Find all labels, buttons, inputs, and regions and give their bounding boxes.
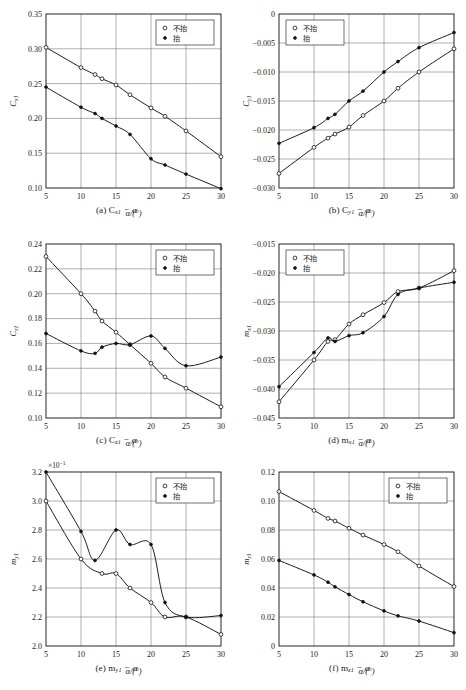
legend-marker-filled <box>164 495 167 498</box>
data-point-filled <box>129 133 132 136</box>
data-point-filled <box>383 609 386 612</box>
legend-a: 不抬抬 <box>156 20 214 45</box>
data-point-open <box>333 519 337 523</box>
data-point-filled <box>327 117 330 120</box>
y-tick-label: 0.16 <box>28 339 42 348</box>
caption-f: (f) mz1 − α <box>233 663 466 673</box>
x-tick-label: 30 <box>217 192 225 201</box>
legend-label-filled: 抬 <box>173 492 181 501</box>
x-tick-label: 30 <box>450 650 458 659</box>
data-point-filled <box>313 351 316 354</box>
data-point-open <box>163 375 167 379</box>
data-point-filled <box>278 559 281 562</box>
x-tick-label: 10 <box>310 650 318 659</box>
caption-e: (e) my1 − α <box>0 663 233 673</box>
x-tick-label: 5 <box>44 192 48 201</box>
y-tick-labels-b: −0.030−0.025−0.020−0.015−0.010−0.0050 <box>252 10 275 193</box>
data-point-open <box>326 340 330 344</box>
data-point-open <box>79 66 83 70</box>
data-point-filled <box>348 593 351 596</box>
x-tick-label: 30 <box>217 650 225 659</box>
data-point-open <box>333 132 337 136</box>
y-axis-title-b: Cy1 <box>241 95 252 106</box>
caption-e-tail: − α <box>122 663 138 673</box>
y-tick-label: −0.020 <box>252 126 275 135</box>
data-point-open <box>312 146 316 150</box>
x-tick-labels-f: 51015202530 <box>277 650 458 659</box>
y-axis-title-d: mx1 <box>241 325 252 337</box>
x-tick-label: 5 <box>44 422 48 431</box>
data-point-open <box>312 358 316 362</box>
data-point-open <box>100 319 104 323</box>
data-point-filled <box>80 349 83 352</box>
x-tick-labels-e: 51015202530 <box>44 650 225 659</box>
y-tick-label: −0.025 <box>252 298 275 307</box>
data-point-open <box>149 361 153 365</box>
x-tick-label: 10 <box>310 192 318 201</box>
data-point-open <box>382 99 386 103</box>
data-point-filled <box>80 106 83 109</box>
caption-c: (c) Cz1 − α <box>0 435 233 445</box>
data-point-filled <box>94 112 97 115</box>
x-tick-label: 5 <box>44 650 48 659</box>
y-tick-labels-f: 00.020.040.060.080.100.12 <box>261 468 275 651</box>
data-point-filled <box>220 614 223 617</box>
caption-a-tail: − α <box>121 205 137 215</box>
x-tick-label: 20 <box>147 650 155 659</box>
data-point-open <box>163 114 167 118</box>
data-point-filled <box>362 90 365 93</box>
x-tick-label: 20 <box>380 422 388 431</box>
x-tick-label: 15 <box>345 192 353 201</box>
data-point-filled <box>383 315 386 318</box>
chart-a: 0.100.150.200.250.300.3551015202530α/(°)… <box>0 0 233 230</box>
x-tick-label: 20 <box>380 192 388 201</box>
y-tick-label: −0.025 <box>252 155 275 164</box>
legend-label-open: 不抬 <box>303 254 318 263</box>
data-point-open <box>184 129 188 133</box>
data-point-open <box>277 490 281 494</box>
data-point-filled <box>115 529 118 532</box>
data-point-filled <box>94 559 97 562</box>
y-tick-labels-d: −0.045−0.040−0.035−0.030−0.025−0.020−0.0… <box>252 240 275 423</box>
figure-root: 0.100.150.200.250.300.3551015202530α/(°)… <box>0 0 466 690</box>
data-point-filled <box>453 31 456 34</box>
data-point-open <box>79 557 83 561</box>
data-point-filled <box>397 614 400 617</box>
legend-label-filled: 抬 <box>303 34 311 43</box>
x-tick-label: 10 <box>310 422 318 431</box>
y-tick-label: 0.08 <box>261 526 275 535</box>
chart-panel-f: 00.020.040.060.080.100.1251015202530α/(°… <box>233 458 466 688</box>
caption-f-tail: − α <box>354 663 370 673</box>
y-tick-label: −0.010 <box>252 68 275 77</box>
x-tick-label: 25 <box>415 650 423 659</box>
x-tick-label: 25 <box>182 650 190 659</box>
data-point-filled <box>164 601 167 604</box>
y-tick-label: −0.005 <box>252 39 275 48</box>
chart-panel-e: 2.02.22.42.62.83.03.251015202530α/(°)my1… <box>0 458 233 688</box>
x-tick-label: 25 <box>182 192 190 201</box>
legend-marker-open <box>293 26 297 30</box>
data-point-filled <box>313 574 316 577</box>
x-tick-label: 10 <box>77 192 85 201</box>
data-point-open <box>128 586 132 590</box>
data-point-filled <box>220 187 223 190</box>
legend-marker-open <box>163 484 167 488</box>
data-point-filled <box>327 581 330 584</box>
legend-f: 不抬抬 <box>389 478 447 503</box>
data-point-filled <box>383 71 386 74</box>
y-tick-label: 0.10 <box>28 184 42 193</box>
y-tick-labels-c: 0.100.120.140.160.180.200.220.24 <box>28 240 42 423</box>
x-tick-label: 5 <box>277 422 281 431</box>
legend-marker-filled <box>164 267 167 270</box>
data-point-filled <box>164 347 167 350</box>
x-tick-label: 20 <box>147 192 155 201</box>
data-point-filled <box>129 543 132 546</box>
data-point-open <box>382 301 386 305</box>
y-tick-label: 2.8 <box>32 526 42 535</box>
data-point-filled <box>453 281 456 284</box>
data-point-open <box>114 330 118 334</box>
y-tick-label: 0 <box>271 642 275 651</box>
data-point-open <box>361 313 365 317</box>
data-point-open <box>100 77 104 81</box>
data-point-filled <box>362 600 365 603</box>
